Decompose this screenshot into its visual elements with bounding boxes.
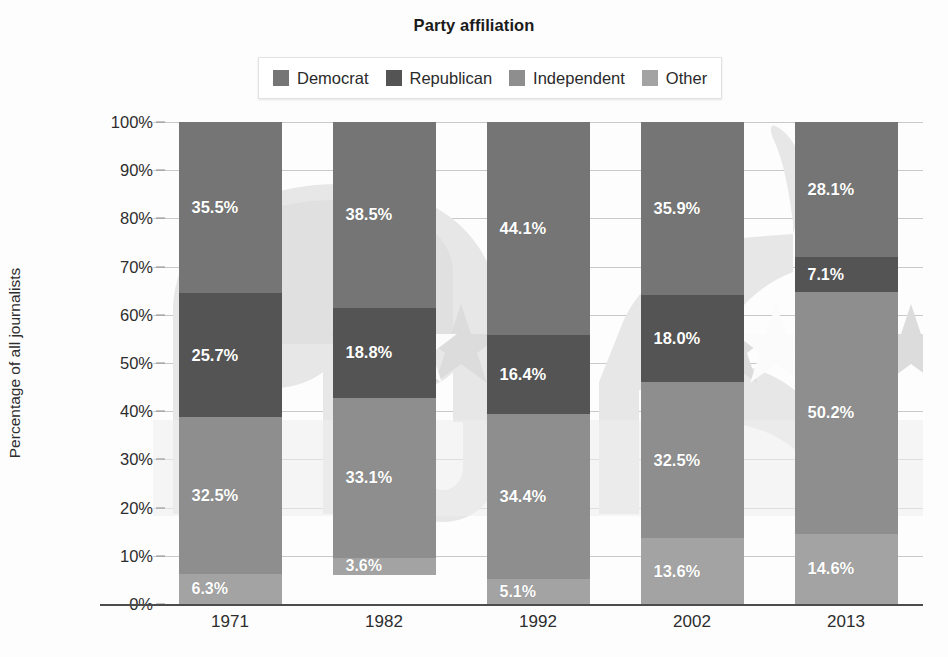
y-tick-mark — [156, 122, 165, 123]
y-tick-label: 40% — [73, 402, 153, 421]
y-tick-label: 50% — [73, 354, 153, 373]
x-tick-label-1982: 1982 — [333, 612, 436, 642]
legend-item-independent[interactable]: Independent — [509, 69, 625, 88]
legend-swatch-republican — [386, 70, 402, 86]
legend-label: Other — [666, 69, 707, 88]
legend-label: Democrat — [297, 69, 369, 88]
legend-swatch-independent — [509, 70, 525, 86]
x-tick-label-2002: 2002 — [641, 612, 744, 642]
y-axis-tick-labels: 100%90%80%70%60%50%40%30%20%10%0% — [0, 122, 948, 604]
y-tick-mark — [156, 411, 165, 412]
y-tick-label: 10% — [73, 546, 153, 565]
legend-item-democrat[interactable]: Democrat — [273, 69, 369, 88]
legend-label: Independent — [533, 69, 625, 88]
y-tick-mark — [156, 314, 165, 315]
chart-title: Party affiliation — [0, 16, 948, 35]
x-tick-label-1992: 1992 — [487, 612, 590, 642]
y-tick-mark — [156, 170, 165, 171]
y-tick-label: 30% — [73, 450, 153, 469]
y-tick-label: 20% — [73, 498, 153, 517]
y-tick-label: 100% — [73, 113, 153, 132]
y-tick-mark — [156, 459, 165, 460]
y-tick-label: 60% — [73, 305, 153, 324]
y-tick-mark — [156, 507, 165, 508]
party-affiliation-chart: Party affiliation DemocratRepublicanInde… — [0, 0, 948, 657]
legend-item-republican[interactable]: Republican — [386, 69, 493, 88]
y-tick-mark — [156, 363, 165, 364]
y-tick-mark — [156, 555, 165, 556]
legend-label: Republican — [410, 69, 493, 88]
y-tick-label: 80% — [73, 209, 153, 228]
x-tick-label-1971: 1971 — [179, 612, 282, 642]
x-tick-label-2013: 2013 — [795, 612, 898, 642]
y-tick-mark — [156, 266, 165, 267]
legend-swatch-democrat — [273, 70, 289, 86]
y-tick-mark — [156, 218, 165, 219]
chart-legend: DemocratRepublicanIndependentOther — [258, 57, 722, 99]
x-axis-line — [100, 604, 923, 606]
legend-item-other[interactable]: Other — [642, 69, 707, 88]
x-axis-tick-labels: 19711982199220022013 — [153, 612, 923, 642]
y-tick-label: 70% — [73, 257, 153, 276]
y-tick-label: 90% — [73, 161, 153, 180]
legend-swatch-other — [642, 70, 658, 86]
